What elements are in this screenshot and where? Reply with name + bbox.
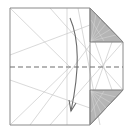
origami-diagram xyxy=(0,0,131,135)
